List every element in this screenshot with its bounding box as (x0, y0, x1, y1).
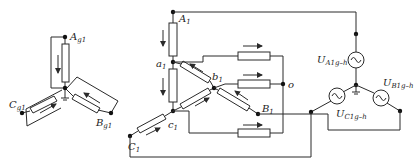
resistor-out-b (238, 80, 270, 88)
resistor-ab (180, 61, 211, 83)
label-b1: b1 (212, 71, 223, 84)
resistor-a1 (169, 23, 177, 56)
label-A1: A1 (178, 13, 191, 26)
label-ub: UB1g–h (383, 77, 414, 90)
label-cg1: Cg1 (9, 99, 26, 112)
circuit-diagram: Ag1 Cg1 Bg1 (0, 0, 415, 167)
label-ua: UA1g–h (317, 54, 347, 67)
resistor-cC (137, 114, 166, 133)
resistor-out-a (238, 52, 270, 60)
label-bg1: Bg1 (95, 117, 112, 130)
left-y-network (20, 35, 118, 126)
label-c1: c1 (168, 119, 178, 132)
label-o: o (288, 79, 294, 90)
middle-network (128, 10, 285, 138)
resistor-ac (169, 69, 177, 102)
resistor-bB (217, 88, 250, 111)
resistor-ag1 (62, 44, 69, 82)
node-o (281, 82, 285, 86)
label-a1: a1 (156, 58, 166, 71)
resistor-out-c (238, 129, 270, 137)
resistor-bg1 (72, 94, 100, 113)
label-uc: UC1g–h (336, 108, 367, 121)
label-ag1: Ag1 (69, 31, 86, 44)
